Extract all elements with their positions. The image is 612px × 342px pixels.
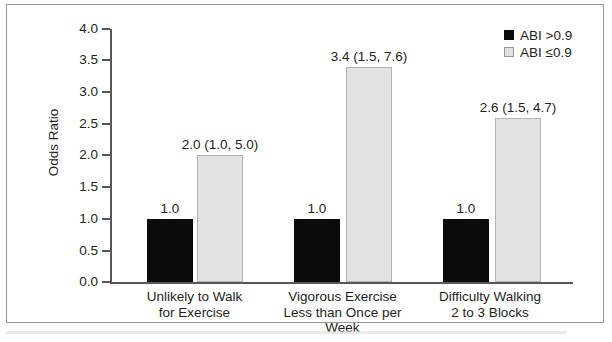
bar-value-group3-abi-low: 2.6 (1.5, 4.7) <box>458 101 578 115</box>
y-tick-label-2-5-wrap: 2.5 <box>60 117 98 131</box>
y-tick-label-3-0: 3.0 <box>64 85 98 99</box>
legend-swatch-black-square-icon <box>504 30 514 40</box>
y-tick-2-5 <box>102 123 110 125</box>
y-tick-0-0 <box>102 281 110 283</box>
x-axis-line <box>110 282 573 284</box>
bar-value-group3-abi-high: 1.0 <box>433 202 499 216</box>
y-tick-label-3-5: 3.5 <box>64 53 98 67</box>
y-axis-title: Odds Ratio <box>46 83 61 203</box>
y-tick-3-5 <box>102 59 110 61</box>
category-label-line: 2 to 3 Blocks <box>425 305 555 321</box>
bar-value-group1-abi-high: 1.0 <box>137 202 203 216</box>
y-tick-3-0 <box>102 91 110 93</box>
category-label-line: for Exercise <box>132 305 257 321</box>
category-label-difficulty-walking: Difficulty Walking 2 to 3 Blocks <box>425 289 555 320</box>
category-label-line: Less than Once per <box>275 305 410 321</box>
bar-group1-abi-high[interactable] <box>147 219 193 282</box>
y-tick-label-0-0-wrap: 0.0 <box>60 275 98 289</box>
y-tick-label-4-0-wrap: 4.0 <box>60 22 98 36</box>
y-tick-0-5 <box>102 250 110 252</box>
y-tick-1-5 <box>102 186 110 188</box>
plot-area: 1.0 2.0 (1.0, 5.0) 1.0 3.4 (1.5, 7.6) 1.… <box>110 29 573 282</box>
bar-group1-abi-low[interactable] <box>197 155 243 282</box>
bar-group3-abi-high[interactable] <box>443 219 489 282</box>
bar-value-group2-abi-high: 1.0 <box>284 202 350 216</box>
page-edge-artifact <box>6 331 566 334</box>
y-tick-2-0 <box>102 154 110 156</box>
y-tick-label-0-5-wrap: 0.5 <box>60 244 98 258</box>
y-tick-label-1-0: 1.0 <box>64 212 98 226</box>
bar-group2-abi-high[interactable] <box>294 219 340 282</box>
y-tick-label-3-5-wrap: 3.5 <box>60 53 98 67</box>
legend-item-abi-low[interactable]: ABI ≤0.9 <box>504 44 572 60</box>
bar-value-group1-abi-low: 2.0 (1.0, 5.0) <box>160 138 280 152</box>
y-tick-label-1-0-wrap: 1.0 <box>60 212 98 226</box>
category-label-unlikely-to-walk: Unlikely to Walk for Exercise <box>132 289 257 320</box>
y-tick-label-2-5: 2.5 <box>64 117 98 131</box>
bar-value-group2-abi-low: 3.4 (1.5, 7.6) <box>309 50 429 64</box>
chart-frame: Odds Ratio 4.0 3.5 3.0 2.5 2.0 1.5 1.0 <box>6 4 604 323</box>
y-tick-label-4-0: 4.0 <box>64 22 98 36</box>
y-tick-1-0 <box>102 218 110 220</box>
legend-item-abi-high[interactable]: ABI >0.9 <box>504 27 572 43</box>
legend: ABI >0.9 ABI ≤0.9 <box>504 27 572 61</box>
category-label-vigorous-exercise: Vigorous Exercise Less than Once per Wee… <box>275 289 410 336</box>
category-label-line: Vigorous Exercise <box>275 289 410 305</box>
category-label-line: Difficulty Walking <box>425 289 555 305</box>
y-tick-4-0 <box>102 28 110 30</box>
y-tick-label-3-0-wrap: 3.0 <box>60 85 98 99</box>
category-label-line: Unlikely to Walk <box>132 289 257 305</box>
y-tick-label-0-5: 0.5 <box>64 244 98 258</box>
y-tick-label-0-0: 0.0 <box>64 275 98 289</box>
legend-swatch-light-gray-square-icon <box>504 47 514 57</box>
chart-screenshot: Odds Ratio 4.0 3.5 3.0 2.5 2.0 1.5 1.0 <box>0 0 612 342</box>
bar-group2-abi-low[interactable] <box>346 67 392 282</box>
y-tick-label-2-0: 2.0 <box>64 148 98 162</box>
y-tick-label-2-0-wrap: 2.0 <box>60 148 98 162</box>
legend-label-abi-high: ABI >0.9 <box>520 28 572 43</box>
y-tick-label-1-5: 1.5 <box>64 180 98 194</box>
y-tick-label-1-5-wrap: 1.5 <box>60 180 98 194</box>
legend-label-abi-low: ABI ≤0.9 <box>520 45 572 60</box>
bar-group3-abi-low[interactable] <box>495 118 541 282</box>
